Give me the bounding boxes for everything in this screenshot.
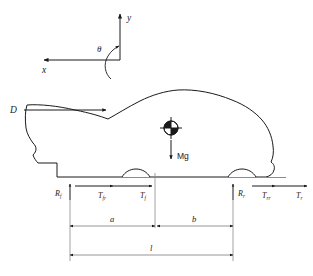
rear-wheel-forces: Rr Trr Tr xyxy=(233,184,307,201)
weight-label: Mg xyxy=(177,151,189,161)
dimension-l: l xyxy=(70,243,233,255)
rear-rolling-label: Trr xyxy=(262,191,271,201)
dimension-a: a xyxy=(70,214,155,226)
front-normal-label: Rf xyxy=(54,189,63,199)
theta-label: θ xyxy=(97,44,102,54)
dimension-a-label: a xyxy=(110,214,114,224)
dimension-l-label: l xyxy=(150,243,153,253)
coordinate-axes: y x θ xyxy=(41,13,132,79)
rear-normal-label: Rr xyxy=(237,189,246,199)
y-axis-label: y xyxy=(126,13,132,23)
front-wheel-forces: Rf Tfr Tf xyxy=(54,184,152,201)
front-traction-label: Tf xyxy=(140,191,147,201)
free-body-diagram: y x θ Mg xyxy=(0,0,313,276)
car-silhouette xyxy=(25,90,274,177)
figure-canvas: y x θ Mg xyxy=(0,0,313,276)
dimension-b-label: b xyxy=(192,214,196,224)
rear-traction-label: Tr xyxy=(296,191,303,201)
dimension-b: b xyxy=(157,214,233,226)
drag-label: D xyxy=(9,105,17,115)
x-axis-label: x xyxy=(41,65,47,75)
front-rolling-label: Tfr xyxy=(98,191,107,201)
car-body-outline xyxy=(25,90,274,177)
theta-arc xyxy=(105,46,119,79)
